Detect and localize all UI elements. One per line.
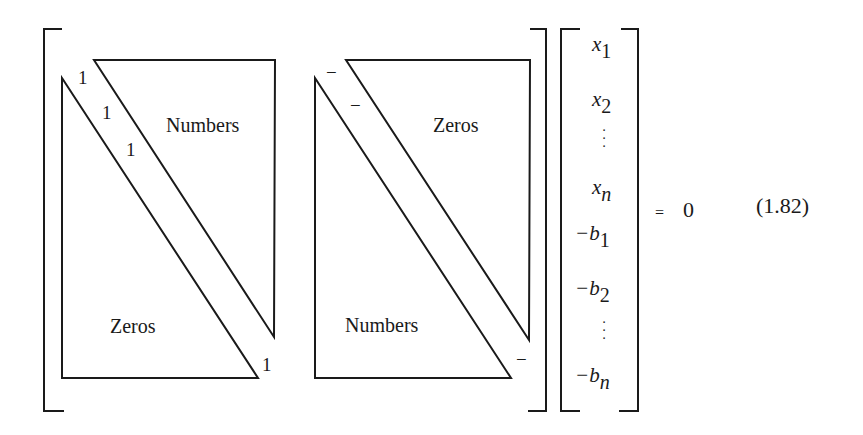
diag-one-1: 1: [78, 68, 88, 87]
right-upper-triangle: [346, 60, 530, 340]
rhs-zero: 0: [683, 199, 694, 221]
equals-sign: =: [655, 205, 664, 221]
vector-entry-bn: −bn: [575, 365, 610, 386]
vector-entry-xn: xn: [592, 177, 611, 198]
vector-left-bracket: [561, 29, 580, 411]
diag-one-4: 1: [262, 355, 272, 374]
right-lower-label: Numbers: [345, 315, 418, 335]
vector-entry-x1: x1: [592, 34, 611, 55]
diag-one-2: 1: [102, 103, 112, 122]
left-lower-label: Zeros: [110, 316, 156, 336]
left-upper-label: Numbers: [166, 115, 239, 135]
vector-entry-x2: x2: [592, 89, 611, 110]
vector-entry-b2: −b2: [575, 278, 610, 299]
matrix-outlines: [0, 0, 863, 435]
diag-minus-2: −: [350, 96, 361, 115]
diag-minus-1: −: [326, 63, 337, 82]
diag-minus-3: −: [516, 350, 527, 369]
right-upper-label: Zeros: [433, 115, 479, 135]
vector-right-bracket: [619, 29, 638, 411]
equation-number: (1.82): [756, 195, 809, 217]
left-upper-triangle: [94, 60, 275, 337]
diag-one-3: 1: [126, 140, 136, 159]
vector-entry-b1: −b1: [575, 223, 610, 244]
vector-ellipsis-1: ···: [599, 127, 609, 151]
vector-ellipsis-2: ···: [599, 319, 609, 343]
